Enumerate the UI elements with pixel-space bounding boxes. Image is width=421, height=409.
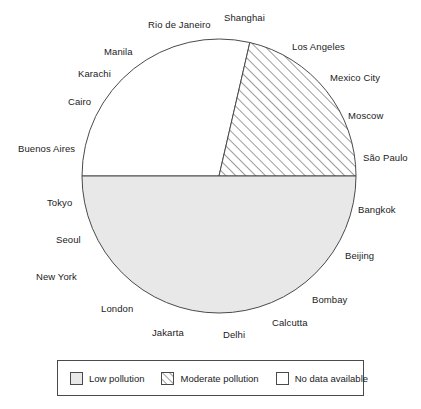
- city-label: Buenos Aires: [18, 143, 75, 154]
- city-label: Delhi: [223, 329, 245, 340]
- legend-item-moderate-pollution[interactable]: Moderate pollution: [161, 372, 258, 385]
- city-label: Shanghai: [224, 12, 265, 23]
- city-label: New York: [36, 271, 77, 282]
- legend-swatch-moderate-pollution-icon: [161, 372, 174, 385]
- city-label: Mexico City: [330, 72, 380, 83]
- city-label: Beijing: [345, 250, 374, 261]
- legend-swatch-low-pollution-icon: [70, 372, 83, 385]
- city-label: Manila: [104, 46, 133, 57]
- city-label: São Paulo: [363, 152, 408, 163]
- city-label: Los Angeles: [292, 41, 345, 52]
- city-label: Tokyo: [47, 197, 72, 208]
- pie-chart-page: Rio de JaneiroShanghaiLos AngelesManilaK…: [0, 0, 421, 409]
- legend-item-low-pollution[interactable]: Low pollution: [70, 372, 144, 385]
- city-label: Bangkok: [358, 204, 396, 215]
- city-label: London: [101, 303, 133, 314]
- legend-swatch-no-data-icon: [276, 372, 289, 385]
- city-label: Moscow: [348, 110, 383, 121]
- pie-slice-low-pollution[interactable]: [82, 176, 356, 313]
- city-label: Calcutta: [272, 317, 308, 328]
- legend-label-moderate-pollution: Moderate pollution: [180, 373, 258, 384]
- city-label: Cairo: [68, 96, 91, 107]
- chart-legend: Low pollution Moderate pollution No data…: [57, 360, 364, 396]
- legend-label-low-pollution: Low pollution: [89, 373, 144, 384]
- city-label: Bombay: [312, 294, 347, 305]
- city-label: Karachi: [78, 68, 111, 79]
- legend-item-no-data-available[interactable]: No data available: [276, 372, 368, 385]
- city-label: Seoul: [56, 234, 81, 245]
- city-label: Jakarta: [152, 327, 184, 338]
- legend-label-no-data-available: No data available: [295, 373, 368, 384]
- city-label: Rio de Janeiro: [148, 19, 211, 30]
